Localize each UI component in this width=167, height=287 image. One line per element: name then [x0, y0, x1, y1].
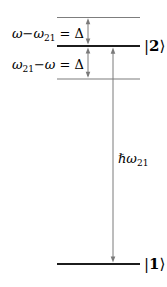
arrowhead-up-icon	[86, 47, 91, 53]
level-1-label: |1⟩	[144, 254, 165, 274]
transition-energy-subscript: 21	[137, 158, 148, 168]
level-2-label: |2⟩	[144, 36, 165, 56]
arrowhead-down-icon	[86, 39, 91, 45]
upper-detuning-omega-expr: ω−ω	[12, 26, 44, 41]
upper-detuning-arrow	[86, 18, 91, 44]
arrowhead-up-icon	[111, 48, 116, 54]
upper-detuning-subscript: 21	[44, 33, 55, 43]
arrowhead-down-icon	[111, 256, 116, 262]
transition-arrow	[111, 48, 116, 263]
arrowhead-up-icon	[86, 18, 91, 24]
hbar-omega: ℏω	[118, 151, 137, 166]
lower-detuning-omega: ω	[12, 57, 23, 72]
ket-angle: ⟩	[160, 255, 166, 273]
ket-angle: ⟩	[160, 37, 166, 55]
transition-energy-label: ℏω21	[118, 150, 148, 172]
arrowhead-down-icon	[86, 72, 91, 78]
upper-detuning-label: ω−ω21 = Δ	[0, 25, 84, 47]
lower-detuning-equals-delta: = Δ	[55, 57, 84, 72]
lower-detuning-label: ω21−ω = Δ	[0, 56, 84, 78]
lower-detuning-subscript: 21	[23, 64, 34, 74]
level-1-number: 1	[149, 255, 159, 273]
level-2-number: 2	[149, 37, 159, 55]
upper-detuning-equals-delta: = Δ	[55, 26, 84, 41]
lower-detuning-arrow	[86, 47, 91, 77]
lower-detuning-minus-omega: −ω	[34, 57, 56, 72]
energy-level-diagram: ω−ω21 = Δ ω21−ω = Δ ℏω21 |2⟩ |1⟩	[0, 0, 167, 287]
